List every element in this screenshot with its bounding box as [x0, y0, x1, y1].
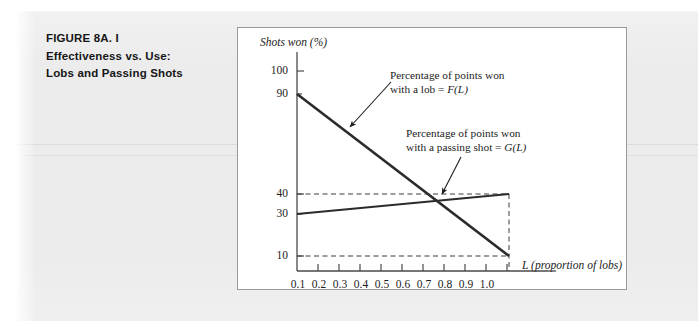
plot-area — [238, 28, 628, 291]
page-top-margin — [0, 0, 698, 14]
figure-caption-line-1: FIGURE 8A. I — [46, 30, 226, 48]
figure-caption-line-2: Effectiveness vs. Use: — [46, 48, 226, 66]
leader-arrow-f — [350, 82, 391, 127]
figure-caption-line-3: Lobs and Passing Shots — [46, 65, 226, 83]
series-line-g — [297, 194, 509, 214]
chart-panel: Shots won (%) L (proportion of lobs) 100… — [237, 27, 627, 290]
leader-arrow-g — [442, 157, 461, 194]
figure-caption: FIGURE 8A. I Effectiveness vs. Use: Lobs… — [46, 30, 226, 83]
x-tick-marks — [318, 264, 507, 271]
series-line-f — [297, 94, 509, 256]
page-left-margin — [0, 0, 36, 321]
